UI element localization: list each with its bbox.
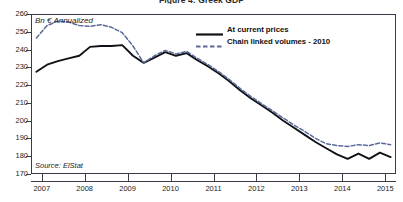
x-tick-mark [214, 174, 215, 182]
x-tick-mark [385, 174, 386, 182]
x-tick-mark [256, 174, 257, 182]
x-tick-mark [171, 174, 172, 182]
chart-legend: At current prices Chain linked volumes -… [196, 24, 376, 48]
y-tick-mark [26, 174, 31, 175]
y-tick-label: 180 [4, 152, 28, 160]
figure-container: Figure 4: Greek GDP 26025024023022021020… [0, 0, 403, 202]
x-tick-label: 2014 [328, 184, 356, 193]
y-tick-label: 220 [4, 81, 28, 89]
y-tick-label: 230 [4, 63, 28, 71]
figure-title: Figure 4: Greek GDP [0, 0, 403, 4]
x-tick-label: 2010 [157, 184, 185, 193]
x-tick-label: 2007 [28, 184, 56, 193]
x-tick-mark [128, 174, 129, 182]
x-tick-label: 2009 [114, 184, 142, 193]
x-tick-label: 2008 [71, 184, 99, 193]
x-tick-label: 2015 [371, 184, 399, 193]
y-tick-label: 210 [4, 99, 28, 107]
x-tick-mark [299, 174, 300, 182]
legend-swatch-solid-icon [196, 25, 223, 34]
source-annotation: Source: ElStat [35, 161, 83, 170]
y-tick-label: 260 [4, 10, 28, 18]
x-tick-mark [342, 174, 343, 182]
x-tick-mark [85, 174, 86, 182]
unit-annotation: Bn € Annualized [35, 16, 93, 25]
y-axis: 260250240230220210200190180170 [0, 0, 28, 202]
y-tick-label: 200 [4, 117, 28, 125]
x-tick-mark [42, 174, 43, 182]
y-tick-label: 250 [4, 28, 28, 36]
legend-label-current-prices: At current prices [227, 25, 289, 34]
legend-swatch-dashed-icon [196, 37, 223, 46]
y-tick-label: 170 [4, 170, 28, 178]
legend-item-current-prices: At current prices [196, 24, 376, 35]
series-line-current-prices [36, 45, 390, 159]
legend-item-chain-linked: Chain linked volumes - 2010 [196, 36, 376, 47]
legend-label-chain-linked: Chain linked volumes - 2010 [227, 37, 330, 46]
y-tick-label: 190 [4, 134, 28, 142]
x-tick-label: 2013 [285, 184, 313, 193]
x-tick-label: 2011 [200, 184, 228, 193]
x-tick-label: 2012 [242, 184, 270, 193]
y-tick-label: 240 [4, 46, 28, 54]
